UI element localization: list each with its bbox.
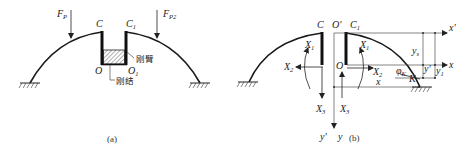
left-x2-label: X2 [283,61,294,73]
rigid-joint-leader [110,65,115,80]
node-c-label: C [96,18,103,29]
dim-ys-label: ys [411,45,419,57]
node-c1-label: C1 [126,18,136,30]
right-x1-moment-icon [358,48,364,89]
node-c1-label: C1 [350,19,360,31]
figure-b: C O' C1 O X1 X2 X3 X1 X2 X3 x' x y' y ys… [237,19,456,143]
rigid-arm-leader [127,52,134,58]
fixed-support-left-icon [19,83,40,88]
axis-y-prime-label: y' [319,131,327,142]
dim-y1-label: y1 [435,65,444,77]
right-x1-label: X1 [359,39,369,51]
figure-a: FP FP2 C C1 O O1 刚臂 刚结 (a) [19,8,210,144]
axis-y-label: y [337,131,343,142]
rigid-arm-label: 刚臂 [136,54,154,64]
axis-x-label: x [448,59,454,70]
fixed-support-right-icon [189,83,210,88]
axis-x-prime-label: x' [448,22,456,33]
left-x1-label: X1 [304,39,314,51]
fixed-support-right-icon [411,87,432,92]
load-right-label: FP2 [162,8,177,20]
caption-b: (b) [349,133,360,143]
dim-y-label: y' [423,63,431,74]
node-c-label: C [317,19,324,30]
node-o-label: O [95,65,102,76]
left-x1-moment-icon [304,48,310,89]
angle-phi-k-label: φK [396,65,407,77]
left-arch-segment [30,32,102,83]
fixed-support-left-icon [237,82,258,87]
right-x3-label: X3 [339,103,350,115]
caption-a: (a) [107,134,117,144]
node-o-prime-label: O' [332,19,342,30]
dim-x-label: x [375,76,381,87]
rigid-joint-label: 刚结 [116,76,134,86]
left-x3-label: X3 [315,103,326,115]
load-left-label: FP [56,8,67,20]
rigid-joint-block [104,50,125,64]
node-o-label: O [336,60,343,71]
point-k-label: K [408,73,417,84]
